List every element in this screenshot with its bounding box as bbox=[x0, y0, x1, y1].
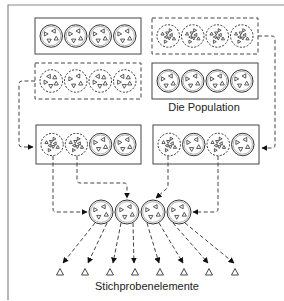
connector-arrows bbox=[19, 36, 275, 212]
cluster-circle bbox=[157, 25, 180, 48]
cluster-circle bbox=[207, 133, 230, 156]
cluster-circle bbox=[65, 25, 88, 48]
sample-element-triangle-icon bbox=[107, 269, 114, 276]
box-2 bbox=[152, 18, 258, 54]
sample-elements-label: Stichprobenelemente bbox=[95, 280, 199, 292]
fanout-arrow bbox=[159, 223, 183, 263]
sample-element-triangle-icon bbox=[82, 269, 89, 276]
fanout-arrow bbox=[173, 223, 208, 263]
cluster-circle bbox=[232, 133, 255, 156]
fanout-arrow bbox=[113, 223, 121, 263]
box-4 bbox=[152, 63, 258, 99]
cluster-circle bbox=[141, 200, 165, 224]
box-1 bbox=[35, 18, 141, 54]
cluster-circle bbox=[65, 70, 88, 93]
arrow-box2-to-selected-right bbox=[258, 36, 275, 148]
cluster-sampling-diagram bbox=[0, 0, 284, 301]
cluster-circle bbox=[157, 70, 180, 93]
cluster-circle bbox=[231, 70, 254, 93]
sel-left bbox=[36, 125, 141, 164]
cluster-circle bbox=[206, 70, 229, 93]
cluster-circle bbox=[182, 70, 205, 93]
sample-element-triangle-icon bbox=[232, 269, 239, 276]
cluster-circle bbox=[182, 25, 205, 48]
population-label: Die Population bbox=[168, 101, 240, 113]
cluster-circle bbox=[89, 25, 112, 48]
cluster-circle bbox=[206, 25, 229, 48]
cluster-circle bbox=[114, 70, 137, 93]
box-3 bbox=[35, 63, 141, 99]
arrow-box3-to-selected-left bbox=[19, 81, 35, 147]
fanout-arrow bbox=[185, 223, 234, 263]
fanout-arrow bbox=[63, 223, 95, 263]
cluster-circle bbox=[90, 133, 112, 155]
fanout-arrows bbox=[63, 223, 234, 263]
cluster-circle bbox=[114, 25, 137, 48]
sample-clusters bbox=[89, 200, 191, 224]
sample-element-triangle-icon bbox=[57, 269, 64, 276]
sel-right bbox=[153, 125, 259, 164]
population-boxes bbox=[35, 18, 258, 99]
sample-elements bbox=[57, 269, 239, 276]
cluster-circle bbox=[158, 133, 181, 156]
selected-clusters-boxes bbox=[36, 125, 259, 164]
cluster-circle bbox=[40, 70, 63, 93]
cluster-circle bbox=[231, 25, 254, 48]
fanout-arrow bbox=[147, 223, 159, 263]
sample-element-triangle-icon bbox=[157, 269, 164, 276]
sample-element-triangle-icon bbox=[206, 269, 213, 276]
sample-element-triangle-icon bbox=[181, 269, 188, 276]
cluster-circle bbox=[40, 25, 63, 48]
cluster-circle bbox=[183, 133, 206, 156]
sample-element-triangle-icon bbox=[132, 269, 139, 276]
cluster-circle bbox=[89, 70, 112, 93]
cluster-circle bbox=[89, 200, 113, 224]
cluster-circle bbox=[167, 200, 191, 224]
fanout-arrow bbox=[88, 223, 107, 263]
cluster-circle bbox=[115, 200, 139, 224]
fanout-arrow bbox=[133, 223, 134, 263]
cluster-circle bbox=[65, 133, 87, 155]
cluster-circle bbox=[114, 133, 136, 155]
cluster-circle bbox=[41, 133, 63, 155]
